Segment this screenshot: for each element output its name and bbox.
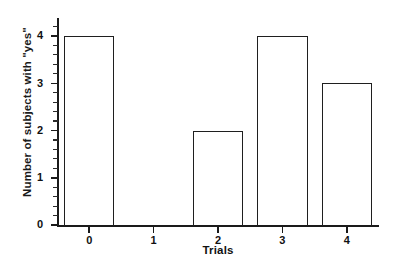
y-tick-label: 2 xyxy=(37,124,43,135)
y-tick-minor xyxy=(53,92,58,93)
bar-chart: Number of subjects with "yes" 01234 0123… xyxy=(0,0,395,268)
y-tick-major: 2 xyxy=(51,130,58,132)
y-tick-minor xyxy=(53,64,58,65)
y-tick-minor xyxy=(53,215,58,216)
y-axis-line xyxy=(57,18,59,226)
y-tick-minor xyxy=(53,168,58,169)
y-tick-major: 0 xyxy=(51,224,58,226)
y-tick-minor xyxy=(53,158,58,159)
y-tick-minor xyxy=(53,196,58,197)
x-axis-title: Trials xyxy=(57,244,379,256)
x-tick-major xyxy=(88,226,90,233)
y-tick-minor xyxy=(53,206,58,207)
plot-area: 01234 01234 xyxy=(57,18,379,226)
bar xyxy=(64,36,114,226)
y-tick-minor xyxy=(53,187,58,188)
y-tick-minor xyxy=(53,73,58,74)
y-axis-title: Number of subjects with "yes" xyxy=(21,7,33,217)
y-tick-label: 0 xyxy=(37,219,43,230)
x-tick-major xyxy=(217,226,219,233)
y-tick-minor xyxy=(53,26,58,27)
y-tick-major: 1 xyxy=(51,177,58,179)
y-tick-minor xyxy=(53,139,58,140)
y-tick-minor xyxy=(53,45,58,46)
x-tick-major xyxy=(346,226,348,233)
x-tick-major xyxy=(153,226,155,233)
bar xyxy=(257,36,307,226)
y-tick-minor xyxy=(53,111,58,112)
bar xyxy=(322,83,372,226)
y-tick-label: 1 xyxy=(37,172,43,183)
y-tick-minor xyxy=(53,149,58,150)
y-tick-label: 4 xyxy=(37,30,43,41)
y-tick-minor xyxy=(53,102,58,103)
y-tick-minor xyxy=(53,120,58,121)
y-tick-major: 3 xyxy=(51,83,58,85)
y-tick-major: 4 xyxy=(51,35,58,37)
x-tick-major xyxy=(282,226,284,233)
y-tick-label: 3 xyxy=(37,77,43,88)
y-tick-minor xyxy=(53,54,58,55)
bar xyxy=(193,131,243,227)
